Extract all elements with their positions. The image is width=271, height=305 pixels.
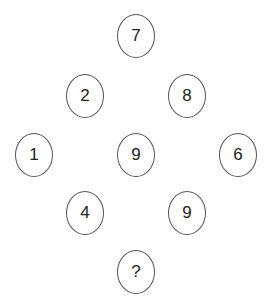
- node-label: 2: [80, 86, 89, 106]
- node-bottom-unknown: ?: [117, 250, 155, 294]
- node-left: 1: [15, 133, 53, 177]
- node-center: 9: [117, 133, 155, 177]
- node-upper-right: 8: [168, 74, 206, 118]
- node-label: 9: [131, 145, 140, 165]
- node-right: 6: [219, 133, 257, 177]
- node-label: 4: [80, 203, 89, 223]
- node-top: 7: [117, 14, 155, 58]
- node-label: 7: [131, 26, 140, 46]
- node-label: ?: [131, 262, 140, 282]
- node-label: 6: [233, 145, 242, 165]
- node-label: 9: [182, 203, 191, 223]
- node-label: 8: [182, 86, 191, 106]
- node-upper-left: 2: [66, 74, 104, 118]
- node-lower-right: 9: [168, 191, 206, 235]
- node-label: 1: [29, 145, 38, 165]
- node-lower-left: 4: [66, 191, 104, 235]
